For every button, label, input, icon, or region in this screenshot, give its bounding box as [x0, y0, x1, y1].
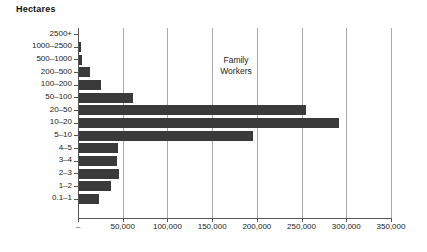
y-axis-tick-label: 10–20 [2, 118, 72, 126]
y-axis-tick-label: 3–4 [2, 156, 72, 164]
y-axis-tick-label: 200–500 [2, 68, 72, 76]
bar-row [78, 142, 391, 155]
bar [78, 143, 118, 153]
y-axis-tick-label: 4–5 [2, 144, 72, 152]
annotation-line-1: Family [207, 55, 265, 66]
bar [78, 105, 306, 115]
annotation-line-2: Workers [207, 66, 265, 77]
bar [78, 118, 339, 128]
bar-row [78, 91, 391, 104]
x-axis-tick-label: 350,000 [377, 222, 406, 231]
y-axis-tick-mark [74, 85, 78, 86]
bar [78, 194, 99, 204]
x-axis-tick-label: 250,000 [287, 222, 316, 231]
bar [78, 80, 101, 90]
x-axis-tick-label: 200,000 [242, 222, 271, 231]
bar-row [78, 117, 391, 130]
x-axis-tick-label: 150,000 [198, 222, 227, 231]
y-axis-tick-mark [74, 199, 78, 200]
chart-annotation: Family Workers [207, 55, 265, 77]
bar-row [78, 41, 391, 54]
y-axis-tick-label: 2500+ [2, 30, 72, 38]
x-axis-tick-label: 300,000 [332, 222, 361, 231]
bar-row [78, 167, 391, 180]
y-axis-tick-mark [74, 59, 78, 60]
bar [78, 131, 253, 141]
gridline [391, 28, 392, 218]
x-axis-tick-label: 50,000 [110, 222, 134, 231]
y-axis-tick-label: 2–3 [2, 169, 72, 177]
y-axis-tick-mark [74, 123, 78, 124]
bar [78, 181, 111, 191]
y-axis-tick-mark [74, 135, 78, 136]
bar [78, 156, 117, 166]
y-axis-tick-label: 1–2 [2, 182, 72, 190]
bar [78, 93, 133, 103]
y-axis-tick-label: 500–1000 [2, 55, 72, 63]
bar [78, 169, 119, 179]
y-axis-tick-mark [74, 34, 78, 35]
bar-row [78, 129, 391, 142]
x-axis-tick-label: 100,000 [153, 222, 182, 231]
y-axis-tick-mark [74, 148, 78, 149]
y-axis-tick-label: 50–100 [2, 93, 72, 101]
bar-row [78, 79, 391, 92]
bar-row [78, 28, 391, 41]
bar-row [78, 180, 391, 193]
y-axis-tick-label: 100–200 [2, 80, 72, 88]
y-axis-tick-mark [74, 186, 78, 187]
y-axis-tick-label: 0.1–1 [2, 194, 72, 202]
x-axis-tick-label: – [76, 222, 80, 231]
y-axis-labels: 2500+1000–2500500–1000200–500100–20050–1… [0, 28, 72, 218]
y-axis-tick-mark [74, 110, 78, 111]
y-axis-line [78, 28, 79, 218]
y-axis-tick-mark [74, 173, 78, 174]
y-axis-tick-mark [74, 72, 78, 73]
page-title: Hectares [16, 4, 56, 14]
y-axis-tick-label: 1000–2500 [2, 42, 72, 50]
bar-row [78, 155, 391, 168]
y-axis-tick-mark [74, 47, 78, 48]
y-axis-tick-mark [74, 161, 78, 162]
bar [78, 67, 90, 77]
bar-row [78, 193, 391, 206]
y-axis-tick-label: 5–10 [2, 131, 72, 139]
y-axis-tick-label: 20–50 [2, 106, 72, 114]
y-axis-tick-mark [74, 97, 78, 98]
x-axis-line [78, 218, 392, 219]
bar-row [78, 104, 391, 117]
chart-container: Hectares 2500+1000–2500500–1000200–50010… [0, 0, 427, 252]
